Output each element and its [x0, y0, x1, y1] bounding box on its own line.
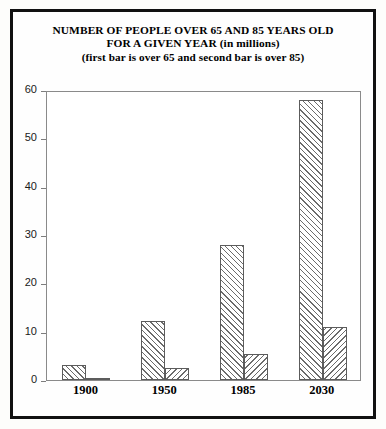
plot-area	[46, 91, 361, 381]
y-axis-tick-label: 10	[25, 325, 37, 337]
x-axis: 1900195019852030	[46, 381, 361, 405]
bar-2030-over-85	[323, 327, 347, 380]
x-axis-label-1900: 1900	[73, 383, 98, 398]
bar-2030-over-65	[299, 100, 323, 380]
bar-1950-over-65	[141, 321, 165, 380]
y-axis-tick-label: 0	[31, 373, 37, 385]
bar-1985-over-65	[220, 245, 244, 380]
chart-title: NUMBER OF PEOPLE OVER 65 AND 85 YEARS OL…	[16, 24, 370, 64]
x-axis-label-1950: 1950	[152, 383, 177, 398]
y-axis-tick-label: 20	[25, 276, 37, 288]
bar-1900-over-85	[86, 378, 110, 380]
x-axis-label-2030: 2030	[309, 383, 334, 398]
bar-group	[141, 92, 189, 380]
bars-layer	[47, 92, 360, 380]
bar-group	[62, 92, 110, 380]
bar-group	[299, 92, 347, 380]
y-axis-tick-label: 40	[25, 180, 37, 192]
bar-group	[220, 92, 268, 380]
y-axis-tick-label: 30	[25, 228, 37, 240]
x-axis-label-1985: 1985	[230, 383, 255, 398]
bar-1950-over-85	[165, 368, 189, 380]
y-axis-tick-label: 60	[25, 83, 37, 95]
bar-1900-over-65	[62, 365, 86, 380]
title-line-2: FOR A GIVEN YEAR (in millions)	[16, 37, 370, 50]
title-line-3: (first bar is over 65 and second bar is …	[16, 51, 370, 64]
title-line-1: NUMBER OF PEOPLE OVER 65 AND 85 YEARS OL…	[16, 24, 370, 37]
chart-figure: NUMBER OF PEOPLE OVER 65 AND 85 YEARS OL…	[0, 0, 386, 429]
y-axis-tick-label: 50	[25, 131, 37, 143]
y-axis: 0102030405060	[0, 91, 46, 381]
bar-1985-over-85	[244, 354, 268, 380]
